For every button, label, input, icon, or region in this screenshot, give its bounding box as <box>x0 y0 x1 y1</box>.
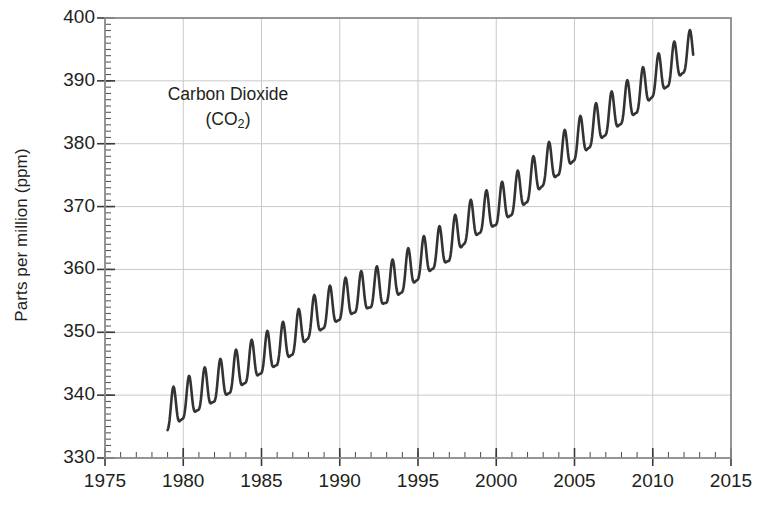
x-tick-label: 1975 <box>70 470 140 492</box>
x-tick-label: 2000 <box>461 470 531 492</box>
series-annotation: Carbon Dioxide (CO2) <box>118 82 338 133</box>
y-tick-label: 400 <box>40 6 95 28</box>
annotation-formula-prefix: (CO <box>206 109 238 129</box>
plot-area <box>0 0 767 510</box>
x-tick-label: 1980 <box>148 470 218 492</box>
y-tick-label: 360 <box>40 257 95 279</box>
annotation-line-1: Carbon Dioxide <box>118 82 338 107</box>
y-tick-label: 330 <box>40 446 95 468</box>
y-tick-label: 370 <box>40 195 95 217</box>
annotation-formula-suffix: ) <box>245 109 251 129</box>
co2-chart: Parts per million (ppm) 3303403503603703… <box>0 0 767 510</box>
x-tick-label: 2010 <box>618 470 688 492</box>
x-tick-label: 2015 <box>696 470 766 492</box>
x-tick-label: 1995 <box>383 470 453 492</box>
x-tick-label: 1985 <box>227 470 297 492</box>
x-tick-label: 1990 <box>305 470 375 492</box>
y-tick-label: 350 <box>40 320 95 342</box>
y-tick-label: 340 <box>40 383 95 405</box>
annotation-formula-subscript: 2 <box>238 117 245 131</box>
y-tick-label: 380 <box>40 132 95 154</box>
y-tick-label: 390 <box>40 69 95 91</box>
x-tick-label: 2005 <box>540 470 610 492</box>
annotation-line-2: (CO2) <box>118 107 338 133</box>
